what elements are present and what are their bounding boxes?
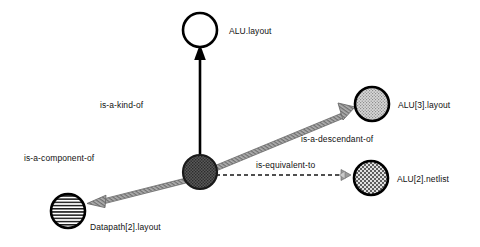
node-label-alu2-netlist: ALU[2].netlist (397, 174, 449, 184)
diagram-canvas: ALU.layout ALU[3].layout ALU[2].netlist … (0, 0, 480, 247)
edge-is-a-kind-of (194, 44, 206, 157)
node-label-datapath2-layout: Datapath[2].layout (90, 222, 161, 232)
edge-label-is-equivalent-to: is-equivalent-to (256, 160, 315, 170)
diagram-graphics (0, 0, 480, 247)
edge-label-is-a-component-of: is-a-component-of (24, 153, 94, 163)
node-label-alu3-layout: ALU[3].layout (398, 100, 450, 110)
node-datapath2-layout[interactable] (51, 194, 85, 228)
edge-is-equivalent-to (216, 170, 351, 181)
node-label-alu-layout: ALU.layout (229, 26, 272, 36)
node-alu2-netlist[interactable] (354, 161, 388, 195)
edge-is-a-component-of (87, 178, 186, 208)
edge-label-is-a-descendant-of: is-a-descendant-of (301, 134, 373, 144)
node-alu-layout[interactable] (183, 13, 217, 47)
edge-label-is-a-kind-of: is-a-kind-of (100, 100, 143, 110)
node-alu3-layout[interactable] (355, 87, 389, 121)
node-alu2-instance[interactable] (183, 155, 217, 189)
